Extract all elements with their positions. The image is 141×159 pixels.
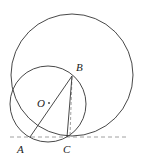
label-c: C bbox=[63, 143, 71, 155]
center-o-dot bbox=[48, 102, 50, 104]
segment-bc bbox=[67, 76, 72, 137]
label-b: B bbox=[76, 61, 83, 73]
label-o: O bbox=[37, 97, 45, 109]
geometry-diagram: B O A C bbox=[0, 0, 141, 159]
label-a: A bbox=[16, 143, 24, 155]
